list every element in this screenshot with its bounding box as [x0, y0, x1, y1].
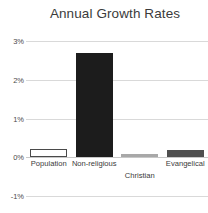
y-axis-tick-label: 0%: [0, 153, 24, 162]
x-axis-label-population: Population: [31, 159, 67, 168]
y-axis-tick-label: 3%: [0, 37, 24, 46]
bar-non-religious[interactable]: [76, 53, 113, 158]
gridline-3pct: [26, 41, 208, 42]
bar-population[interactable]: [30, 149, 67, 158]
chart-title: Annual Growth Rates: [26, 6, 204, 21]
bar-christian[interactable]: [121, 154, 158, 157]
y-axis-tick-label: -1%: [0, 192, 24, 201]
chart-canvas: Annual Growth Rates 3%2%1%0%-1%Populatio…: [0, 0, 208, 213]
gridline-neg1pct: [26, 196, 208, 197]
y-axis-tick-label: 2%: [0, 75, 24, 84]
gridline-2pct: [26, 80, 208, 81]
x-axis-label-non-religious: Non-religious: [72, 159, 117, 168]
x-axis-label-evangelical: Evangelical: [166, 159, 205, 168]
plot-area: 3%2%1%0%-1%PopulationNon-religiousChrist…: [26, 41, 208, 196]
gridline-0pct: [26, 157, 208, 158]
y-axis-tick-label: 1%: [0, 114, 24, 123]
bar-evangelical[interactable]: [167, 150, 204, 158]
x-axis-label-christian: Christian: [125, 171, 155, 180]
gridline-1pct: [26, 119, 208, 120]
